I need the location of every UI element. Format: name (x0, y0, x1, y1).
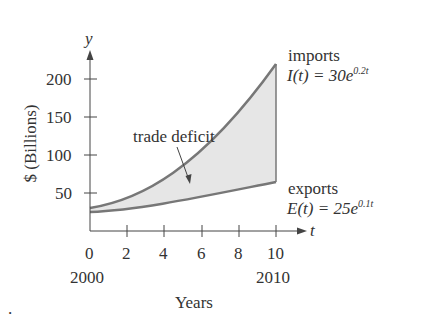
x-axis-arrow (297, 228, 307, 235)
x-tick-8: 8 (234, 245, 243, 262)
x-tick-0: 0 (85, 245, 94, 262)
x-axis-label: Years (175, 294, 213, 311)
imports-formula: I(t) = 30e0.2t (287, 66, 369, 84)
y-tick-100: 100 (46, 147, 72, 164)
y-tick-200: 200 (46, 71, 72, 88)
y-tick-50: 50 (55, 185, 72, 202)
x-tick-4: 4 (159, 245, 168, 262)
x-tick-6: 6 (197, 245, 206, 262)
y-tick-150: 150 (46, 109, 72, 126)
x-tick-2: 2 (122, 245, 131, 262)
y-axis-arrow (87, 50, 94, 60)
exports-label: exports (288, 180, 338, 197)
x-tick-10: 10 (267, 245, 284, 262)
year-start-label: 2000 (70, 269, 104, 286)
year-end-label: 2010 (256, 269, 290, 286)
y-axis-var: y (85, 30, 93, 47)
imports-label: imports (288, 47, 340, 64)
trade-deficit-annotation: trade deficit (133, 128, 215, 145)
exports-formula: E(t) = 25e0.1t (287, 199, 373, 217)
y-axis-label: $ (Billions) (22, 94, 39, 194)
trailing-dot: . (8, 300, 12, 317)
t-axis-var: t (310, 222, 315, 239)
